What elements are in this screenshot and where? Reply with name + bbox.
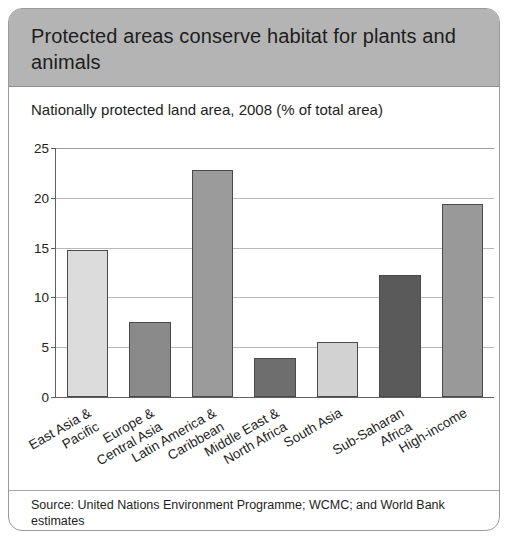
y-tick-label-20: 20: [34, 190, 49, 205]
figure-title: Protected areas conserve habitat for pla…: [31, 23, 461, 75]
bar-7: [442, 204, 483, 397]
figure-card: Protected areas conserve habitat for pla…: [8, 8, 500, 531]
plot-area: 0510152025: [55, 148, 494, 398]
figure-header-band: Protected areas conserve habitat for pla…: [9, 9, 499, 87]
bar-5: [317, 342, 358, 397]
bar-2: [129, 322, 170, 397]
bar-6: [379, 275, 420, 398]
y-tick-label-0: 0: [41, 390, 49, 405]
y-tick-label-25: 25: [34, 141, 49, 156]
source-divider: [9, 490, 499, 491]
bar-4: [254, 358, 295, 397]
bars-group: [56, 148, 494, 397]
bar-1: [67, 250, 108, 397]
y-tick-label-5: 5: [41, 340, 49, 355]
x-axis-labels: East Asia &PacificEurope &Central AsiaLa…: [55, 401, 493, 497]
bar-3: [192, 170, 233, 397]
chart-subtitle: Nationally protected land area, 2008 (% …: [31, 101, 383, 118]
y-tick-label-15: 15: [34, 240, 49, 255]
y-tick-label-10: 10: [34, 290, 49, 305]
source-note: Source: United Nations Environment Progr…: [31, 497, 471, 529]
y-tick-mark-0: [51, 397, 56, 398]
